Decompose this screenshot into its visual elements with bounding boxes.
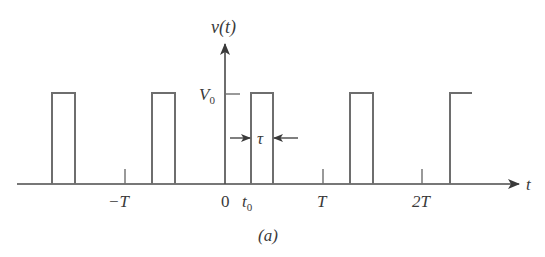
pulse-1 — [52, 93, 75, 184]
tick-label-2T: 2T — [412, 193, 430, 210]
tick-label-T: T — [317, 193, 326, 210]
figure-caption: (a) — [258, 227, 278, 244]
v0-main: V — [199, 85, 209, 104]
v0-subscript: 0 — [209, 94, 215, 106]
v0-label: V0 — [199, 86, 215, 103]
x-axis-label: t — [526, 176, 531, 193]
tick-label-zero: 0 — [221, 193, 230, 210]
pulse-train-diagram — [0, 0, 545, 257]
y-axis-label: v(t) — [211, 18, 236, 36]
pulse-2 — [152, 93, 175, 184]
pulse-5-partial — [450, 93, 472, 184]
tick-label-t0: t0 — [242, 193, 252, 210]
tick-label-minus-T: −T — [108, 193, 129, 210]
tau-label: τ — [257, 130, 263, 147]
t0-subscript: 0 — [247, 201, 253, 213]
pulse-4 — [350, 93, 373, 184]
